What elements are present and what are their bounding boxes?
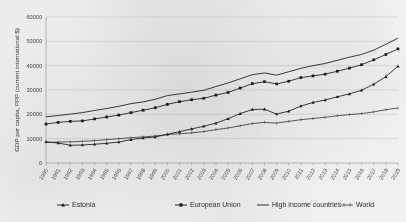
legend-item-world[interactable]: World [341,201,374,208]
x-axis-tick-label: 2007 [244,167,255,180]
x-axis-tick-label: 2008 [256,167,267,180]
legend-label: European Union [190,201,241,209]
x-axis-tick-label: 1995 [98,167,109,180]
x-axis-tick-label: 2005 [220,167,231,180]
legend-label: High income countries [272,201,342,209]
y-axis-tick-label: 0 [39,160,42,166]
x-axis-tick-label: 2018 [378,167,389,180]
legend-item-european-union[interactable]: European Union [175,201,241,209]
legend-label: Estonia [72,201,95,208]
x-axis-tick-label: 1994 [86,167,97,180]
x-axis-tick-label: 2015 [341,167,352,180]
y-axis-title: GDP per capita, PPP (current internation… [13,28,20,152]
x-axis-tick-label: 2004 [208,167,219,180]
x-axis-tick-label: 2000 [159,167,170,180]
x-axis-tick-label: 2010 [281,167,292,180]
series-european-union [45,48,400,126]
y-axis-title-text: GDP per capita, PPP (current internation… [13,28,20,152]
chart-figure: 0100002000030000400005000060000 19901991… [0,0,406,222]
legend-label: World [356,201,374,208]
x-axis-tick-label: 2009 [268,167,279,180]
x-axis-tick-label: 1993 [74,167,85,180]
series-estonia [44,64,399,146]
gridline-group [46,17,398,139]
x-axis-tick-label: 2013 [317,167,328,180]
y-axis-tick-label: 10000 [26,136,42,142]
y-axis-tick-label: 20000 [26,111,42,117]
x-axis-tick-label: 2002 [183,167,194,180]
y-axis-tick-label-group: 0100002000030000400005000060000 [26,14,42,166]
y-axis-tick-label: 40000 [26,63,42,69]
x-axis-tick-label: 2003 [196,167,207,180]
x-axis-tick-label: 2012 [305,167,316,180]
x-axis-tick-label: 1991 [50,167,61,180]
y-axis-tick-label: 50000 [26,38,42,44]
y-axis-tick-label: 60000 [26,14,42,20]
x-axis-tick-label: 2006 [232,167,243,180]
x-axis-tick-label-group: 1990199119921993199419951996199719981999… [38,163,401,181]
chart-legend: EstoniaEuropean UnionHigh income countri… [57,201,374,209]
x-axis-tick-label: 1996 [111,167,122,180]
x-axis-tick-label: 2016 [353,167,364,180]
x-axis-tick-label: 2019 [390,167,401,180]
x-axis-tick-label: 1997 [123,167,134,180]
x-axis-tick-label: 2017 [366,167,377,180]
x-axis-tick-label: 1990 [38,167,49,180]
x-axis-tick-label: 2011 [293,167,304,180]
x-axis-tick-label: 1992 [62,167,73,180]
x-axis-tick-label: 1999 [147,167,158,180]
series-high-income-countries [46,38,398,117]
chart-svg: 0100002000030000400005000060000 19901991… [0,0,406,222]
data-series-group [44,38,399,146]
x-axis-tick-label: 2001 [171,167,182,180]
x-axis-tick-label: 1998 [135,167,146,180]
series-world [46,107,398,144]
x-axis-tick-label: 2014 [329,167,340,180]
legend-item-high-income-countries[interactable]: High income countries [257,201,342,209]
legend-item-estonia[interactable]: Estonia [57,201,95,208]
y-axis-tick-label: 30000 [26,87,42,93]
